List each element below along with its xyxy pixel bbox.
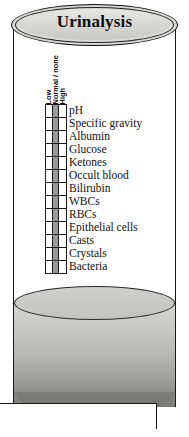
vessel-right-wall — [175, 24, 176, 407]
result-cell-high — [59, 131, 67, 144]
result-cell-high — [59, 144, 67, 157]
result-cell-low — [46, 209, 53, 222]
result-cell-low — [46, 118, 53, 131]
result-cell-low — [46, 183, 53, 196]
result-cell-high — [59, 209, 67, 222]
result-cell-normal — [53, 196, 60, 209]
results-grid-row — [46, 196, 67, 209]
results-grid-row — [46, 105, 67, 118]
results-grid-row — [46, 248, 67, 261]
results-grid-row — [46, 170, 67, 183]
analyte-label: Bilirubin — [69, 182, 173, 195]
results-grid-row — [46, 209, 67, 222]
result-cell-low — [46, 157, 53, 170]
result-cell-high — [59, 235, 67, 248]
result-cell-high — [59, 248, 67, 261]
results-grid — [45, 104, 67, 274]
result-cell-low — [46, 170, 53, 183]
result-cell-normal — [53, 235, 60, 248]
result-cell-high — [59, 118, 67, 131]
analyte-label: Occult blood — [69, 169, 173, 182]
analyte-label: Casts — [69, 234, 173, 247]
analyte-label: RBCs — [69, 208, 173, 221]
result-cell-normal — [53, 209, 60, 222]
result-cell-high — [59, 105, 67, 118]
results-grid-row — [46, 144, 67, 157]
result-cell-low — [46, 105, 53, 118]
analyte-label: Epithelial cells — [69, 221, 173, 234]
analyte-label: Glucose — [69, 143, 173, 156]
result-cell-low — [46, 196, 53, 209]
result-cell-low — [46, 222, 53, 235]
vessel-base-right-cutout — [180, 400, 189, 437]
result-cell-normal — [53, 170, 60, 183]
results-grid-row — [46, 131, 67, 144]
result-cell-normal — [53, 222, 60, 235]
results-grid-row — [46, 235, 67, 248]
analyte-label: Ketones — [69, 156, 173, 169]
result-cell-low — [46, 261, 53, 274]
figure-title: Urinalysis — [11, 12, 178, 32]
result-cell-high — [59, 170, 67, 183]
result-cell-normal — [53, 261, 60, 274]
result-cell-normal — [53, 105, 60, 118]
result-cell-high — [59, 196, 67, 209]
result-cell-normal — [53, 131, 60, 144]
column-header-high: High — [59, 88, 66, 104]
result-cell-high — [59, 157, 67, 170]
vessel-base-cutout — [0, 404, 156, 437]
analyte-label: Bacteria — [69, 260, 173, 273]
result-cell-high — [59, 261, 67, 274]
result-cell-low — [46, 248, 53, 261]
results-grid-row — [46, 118, 67, 131]
analyte-label: Albumin — [69, 130, 173, 143]
result-cell-normal — [53, 183, 60, 196]
result-cell-normal — [53, 157, 60, 170]
results-grid-row — [46, 222, 67, 235]
analyte-label-list: pHSpecific gravityAlbuminGlucoseKetonesO… — [69, 104, 173, 273]
result-cell-normal — [53, 248, 60, 261]
analyte-label: WBCs — [69, 195, 173, 208]
vessel-base-right-stub — [156, 403, 157, 429]
analyte-label: Crystals — [69, 247, 173, 260]
urine-liquid-surface — [14, 286, 175, 320]
result-cell-high — [59, 222, 67, 235]
urinalysis-figure: Urinalysis Low Normal / none High pHSpec… — [0, 0, 189, 437]
result-cell-normal — [53, 144, 60, 157]
column-header-group: Low Normal / none High — [45, 30, 69, 104]
vessel-base-edge — [0, 403, 156, 404]
results-grid-row — [46, 157, 67, 170]
result-cell-low — [46, 235, 53, 248]
result-cell-normal — [53, 118, 60, 131]
results-grid-row — [46, 261, 67, 274]
analyte-label: Specific gravity — [69, 117, 173, 130]
analyte-label: pH — [69, 104, 173, 117]
results-grid-row — [46, 183, 67, 196]
result-cell-low — [46, 131, 53, 144]
result-cell-high — [59, 183, 67, 196]
result-cell-low — [46, 144, 53, 157]
